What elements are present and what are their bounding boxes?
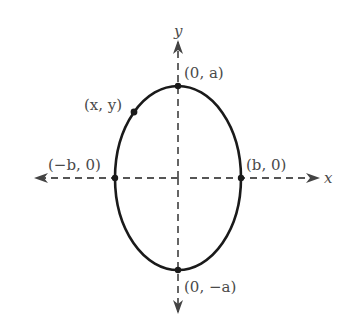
right-vertex-label: (b, 0) [246, 156, 286, 174]
bottom-vertex-label: (0, −a) [184, 278, 236, 296]
y-axis-label: y [173, 22, 183, 40]
x-axis-label: x [324, 169, 333, 187]
right-vertex-dot [238, 175, 244, 181]
top-vertex-label: (0, a) [184, 64, 224, 82]
left-vertex-label: (−b, 0) [48, 156, 101, 174]
top-vertex-dot [175, 83, 181, 89]
general-point-label: (x, y) [84, 96, 122, 114]
general-point-dot [131, 109, 138, 116]
bottom-vertex-dot [175, 267, 181, 273]
left-vertex-dot [112, 175, 118, 181]
ellipse-diagram: y x (0, a) (0, −a) (−b, 0) (b, 0) (x, y) [0, 0, 351, 321]
